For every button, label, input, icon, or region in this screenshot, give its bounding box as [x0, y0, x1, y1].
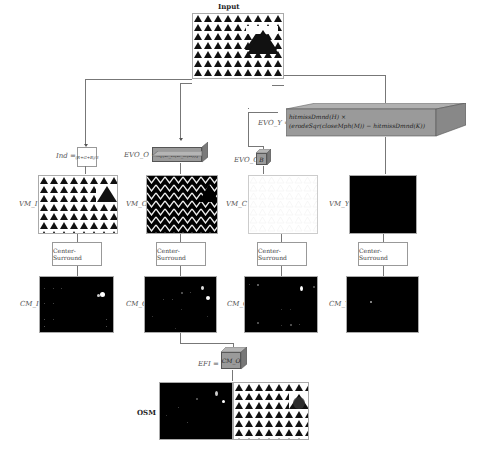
center-surround-c: Center-Surround — [257, 242, 307, 266]
evo-y-formula: hitmissDmnd(H) × (erodeSqr(closeMph(M)) … — [289, 112, 425, 130]
input-image — [192, 13, 284, 79]
evo-o-box-top — [152, 142, 208, 148]
connector — [85, 79, 192, 80]
connector — [263, 166, 264, 174]
arrow-icon — [179, 138, 183, 141]
connector — [281, 234, 282, 242]
connector — [180, 83, 192, 84]
connector — [284, 75, 385, 76]
connector — [281, 266, 282, 276]
connector — [77, 266, 78, 276]
connector — [180, 234, 181, 242]
vm-i-image — [38, 175, 118, 234]
vm-c-label: VM_C — [226, 200, 247, 208]
osm-label: OSM — [137, 408, 156, 417]
connector — [180, 83, 181, 140]
cm-o-image — [144, 276, 217, 333]
cm-i-image — [39, 276, 114, 333]
vm-o-label: VM_O — [126, 200, 147, 208]
efi-box-edges — [221, 347, 247, 370]
connector — [383, 234, 384, 242]
connector — [272, 85, 284, 86]
connector — [248, 146, 264, 147]
connector — [383, 266, 384, 276]
connector — [248, 112, 278, 113]
connector — [77, 234, 78, 242]
vm-c-image — [248, 175, 318, 234]
cm-c-image — [244, 276, 318, 333]
vm-y-image — [349, 175, 417, 234]
connector — [248, 112, 249, 146]
center-surround-y: Center-Surround — [358, 242, 408, 266]
connector — [385, 75, 386, 106]
evo-y-line1: hitmissDmnd(H) × — [289, 112, 425, 121]
ind-label: Ind = — [56, 152, 76, 160]
center-surround-o: Center-Surround — [156, 242, 206, 266]
vm-o-image — [146, 175, 218, 234]
connector — [248, 108, 249, 109]
vm-y-label: VM_Y — [329, 200, 349, 208]
cm-y-image — [346, 276, 419, 333]
efi-label: EFI = — [198, 360, 219, 368]
cm-i-label: CM_I — [20, 300, 39, 308]
connector — [180, 333, 181, 343]
connector — [180, 266, 181, 276]
connector — [180, 163, 181, 174]
evo-y-line2: (erodeSqr(closeMph(M)) − hitmissDmnd(K)) — [289, 121, 425, 130]
osm-map — [159, 382, 233, 440]
connector — [85, 166, 86, 174]
connector — [385, 137, 386, 174]
connector — [180, 343, 233, 344]
center-surround-i: Center-Surround — [52, 242, 102, 266]
input-title: Input — [218, 2, 240, 11]
evo-c-box-edges — [256, 149, 271, 166]
connector — [85, 79, 86, 145]
connector — [232, 370, 233, 381]
evo-o-box-side — [201, 142, 208, 163]
osm-overlay-image — [233, 382, 309, 440]
ind-formula-box: (R+G+B)/3 — [77, 147, 97, 167]
vm-i-label: VM_I — [19, 200, 38, 208]
